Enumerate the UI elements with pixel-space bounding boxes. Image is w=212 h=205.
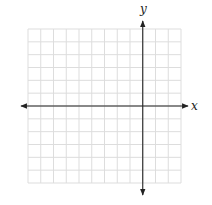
y-axis-label: y	[139, 2, 147, 16]
x-axis-label: x	[191, 99, 198, 113]
coordinate-plane: x y	[0, 0, 212, 205]
